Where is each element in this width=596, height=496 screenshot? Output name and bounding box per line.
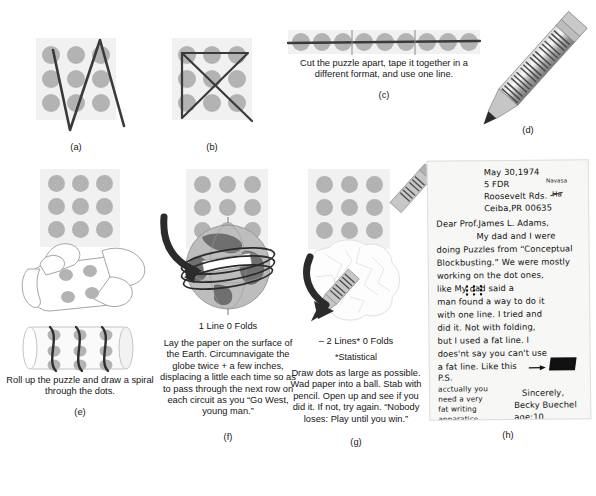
panel-f-letter: (f) [158, 432, 298, 442]
panel-g-illustration [286, 165, 426, 335]
letter-ps-line-3: fat writing [438, 404, 477, 414]
letter-line-8: did it. Not with folding, [437, 322, 535, 333]
panel-c-caption: Cut the puzzle apart, tape it together i… [286, 58, 482, 81]
panel-g-caption: Draw dots as large as possible. Wad pape… [286, 368, 426, 425]
letter-address-line-1: 5 FDR [484, 179, 510, 189]
panel-d-letter: (d) [498, 125, 558, 135]
panel-h: May 30,1974 5 FDR Navasa Roosevelt Rds. … [428, 160, 592, 440]
panel-a-illustration [16, 18, 136, 138]
hands-rolling-paper-illustration [6, 165, 154, 373]
nine-dot-glyph-icon [463, 283, 491, 295]
panel-g: – 2 Lines* 0 Folds *Statistical Draw dot… [286, 165, 426, 447]
panel-d: (d) [472, 8, 592, 148]
letter-closing: Sincerely, [522, 387, 564, 397]
letter-line-2: doing Puzzles from “Conceptual [437, 243, 573, 254]
panel-e-caption: Roll up the puzzle and draw a spiral thr… [6, 375, 154, 398]
letter-signature: Becky Buechel [514, 399, 577, 410]
panel-f-headline: 1 Line 0 Folds [158, 320, 298, 332]
letter-line-7: with one line. I tried and [437, 309, 542, 320]
arrow-icon [529, 364, 547, 372]
panel-b-letter: (b) [152, 142, 272, 152]
handwritten-letter: May 30,1974 5 FDR Navasa Roosevelt Rds. … [427, 159, 592, 421]
panel-f: 1 Line 0 Folds Lay the paper on the surf… [158, 165, 298, 442]
letter-line-6: man found a way to do it [437, 296, 545, 307]
panel-c-letter: (c) [286, 90, 482, 100]
panel-h-letter: (h) [428, 430, 588, 440]
letter-salutation: Dear Prof.James L. Adams, [436, 218, 549, 229]
panel-e-illustration [6, 165, 154, 373]
letter-line-9: but I used a fat line. I [437, 335, 529, 346]
letter-line-11: a fat line. Like this [438, 361, 517, 372]
panel-g-letter: (g) [286, 437, 426, 447]
panel-a-letter: (a) [16, 142, 136, 152]
letter-age: age:10 [514, 412, 544, 421]
panel-e-letter: (e) [6, 407, 154, 417]
letter-ps-line-2: need a very [438, 394, 483, 404]
panel-c: Cut the puzzle apart, tape it together i… [286, 24, 482, 100]
bowtie-solution-lines [152, 18, 272, 138]
panel-a: (a) [16, 18, 136, 152]
globe-circumnavigation-illustration [158, 165, 298, 320]
panel-c-illustration [286, 24, 482, 58]
letter-line-3: Blockbusting.” We were mostly [437, 256, 570, 267]
single-line-and-cut-marks [286, 24, 482, 58]
letter-ps-line-1: acctually you [438, 384, 488, 395]
panel-f-caption: Lay the paper on the surface of the Eart… [158, 338, 298, 418]
letter-ps-label: P.S. [438, 373, 453, 383]
letter-ps-line-4: apparatice. [438, 414, 481, 421]
fat-pencil-icon [472, 8, 592, 138]
zigzag-solution-lines [16, 18, 136, 138]
letter-line-10: does'nt say you can't use [438, 348, 547, 359]
panel-g-headline: – 2 Lines* 0 Folds [286, 335, 426, 347]
panel-b-illustration [152, 18, 272, 138]
letter-address-insert: Navasa [546, 175, 567, 185]
letter-line-4: working on the dot ones, [437, 270, 544, 281]
panel-e: Roll up the puzzle and draw a spiral thr… [6, 165, 154, 417]
fat-line-swatch [549, 357, 577, 370]
letter-body: May 30,1974 5 FDR Navasa Roosevelt Rds. … [428, 160, 591, 420]
letter-line-1: My dad and I were [476, 231, 555, 242]
panel-f-illustration [158, 165, 298, 320]
wadded-paper-and-pencil-illustration [286, 165, 426, 335]
nine-dot-puzzle-figure: (a) (b) [0, 0, 596, 496]
panel-b: (b) [152, 18, 272, 152]
letter-address-line-3: Ceiba,PR 00635 [484, 203, 552, 214]
letter-address-line-2: Roosevelt Rds. [484, 191, 547, 202]
letter-date: May 30,1974 [484, 167, 540, 178]
panel-g-subnote: *Statistical [286, 351, 426, 363]
